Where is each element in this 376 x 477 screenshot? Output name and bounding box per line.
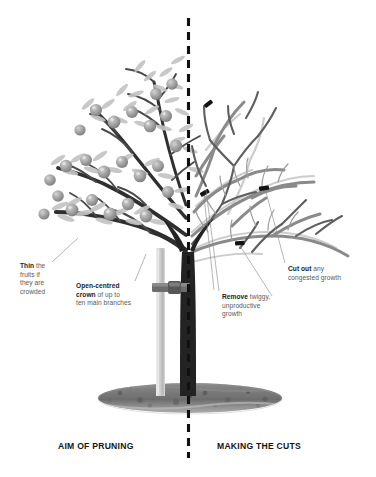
caption-aim-of-pruning: AIM OF PRUNING [58, 441, 134, 451]
caption-making-the-cuts: MAKING THE CUTS [217, 441, 301, 451]
cut-mark-upper-left [204, 99, 214, 108]
label-remove-bold: Remove [222, 293, 248, 300]
label-remove-twiggy-growth: Remove twiggy, unproductive growth [222, 293, 270, 319]
secondary-branches [192, 92, 342, 252]
leader-cut-out-congested [266, 192, 285, 263]
label-thin-fruits-bold: Thin [20, 262, 34, 269]
label-crown-bold: crown [76, 291, 96, 298]
label-open-centred-bold: Open-centred [76, 282, 119, 289]
leader-thin-fruits [52, 238, 78, 262]
label-cut-out-bold: Cut out [288, 265, 311, 272]
cut-mark-lower [235, 241, 245, 246]
label-thin-fruits: Thin the fruits if they are crowded [20, 262, 45, 296]
pruning-diagram: Thin the fruits if they are crowded Open… [0, 0, 376, 477]
label-open-centred-crown: Open-centred crown of up to ten main bra… [76, 282, 131, 308]
tree-illustration [0, 0, 376, 477]
leader-open-centred-crown [135, 254, 146, 281]
label-cut-out-congested-growth: Cut out any congested growth [288, 265, 341, 282]
leafy-fruit-tree [38, 54, 204, 252]
tree-stake [156, 248, 165, 396]
